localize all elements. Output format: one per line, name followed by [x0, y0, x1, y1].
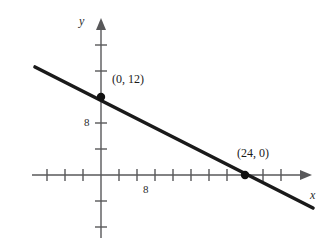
point-label-x-intercept: (24, 0)	[237, 146, 269, 161]
data-point-y-intercept	[97, 93, 105, 101]
x-axis-label: x	[310, 188, 315, 203]
data-point-x-intercept	[241, 171, 249, 179]
line-graph-figure: y x 8 8 (0, 12) (24, 0)	[0, 0, 327, 247]
x-axis-arrowhead	[300, 170, 312, 180]
y-axis-tick-label-8: 8	[84, 116, 90, 128]
x-axis-tick-label-8: 8	[143, 183, 149, 195]
y-axis-label: y	[79, 14, 84, 29]
data-line	[35, 67, 313, 208]
plot-area	[0, 0, 327, 247]
point-label-y-intercept: (0, 12)	[112, 72, 144, 87]
y-axis-arrowhead	[96, 18, 106, 30]
